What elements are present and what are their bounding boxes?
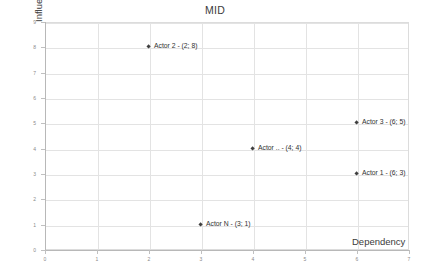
gridline-horizontal <box>46 175 408 176</box>
data-point-label: Actor N - (3; 1) <box>206 220 251 227</box>
x-axis-tick <box>97 250 98 254</box>
y-axis-tick-label: 1 <box>22 222 36 228</box>
data-point-label: Actor 3 - (6; 5) <box>362 118 405 125</box>
data-point-label: Actor 2 - (2; 8) <box>154 42 197 49</box>
scatter-chart: MID Influence Dependency 012345670123456… <box>0 0 430 274</box>
y-axis-tick-label: 9 <box>22 19 36 25</box>
y-axis-tick-label: 5 <box>22 120 36 126</box>
y-axis-tick <box>41 47 45 48</box>
x-axis-tick-label: 7 <box>408 256 411 262</box>
gridline-horizontal <box>46 48 408 49</box>
gridline-vertical <box>306 23 307 249</box>
x-axis-tick <box>253 250 254 254</box>
gridline-horizontal <box>46 99 408 100</box>
y-axis-tick <box>41 250 45 251</box>
y-axis-tick-label: 3 <box>22 171 36 177</box>
y-axis-tick-label: 2 <box>22 196 36 202</box>
gridline-vertical <box>254 23 255 249</box>
x-axis-tick-label: 5 <box>304 256 307 262</box>
gridline-vertical <box>358 23 359 249</box>
plot-area <box>45 22 409 250</box>
gridline-horizontal <box>46 74 408 75</box>
x-axis-tick-label: 3 <box>200 256 203 262</box>
y-axis-tick <box>41 123 45 124</box>
x-axis-tick <box>149 250 150 254</box>
y-axis-line <box>45 22 46 251</box>
x-axis-title: Dependency <box>352 236 405 247</box>
gridline-horizontal <box>46 150 408 151</box>
gridline-horizontal <box>46 124 408 125</box>
y-axis-tick <box>41 98 45 99</box>
gridline-vertical <box>150 23 151 249</box>
x-axis-tick-label: 6 <box>356 256 359 262</box>
y-axis-tick <box>41 149 45 150</box>
x-axis-tick-label: 4 <box>252 256 255 262</box>
y-axis-tick-label: 8 <box>22 44 36 50</box>
y-axis-tick <box>41 22 45 23</box>
x-axis-tick <box>409 250 410 254</box>
y-axis-tick <box>41 225 45 226</box>
x-axis-tick-label: 0 <box>44 256 47 262</box>
gridline-vertical <box>98 23 99 249</box>
y-axis-tick-label: 7 <box>22 70 36 76</box>
y-axis-tick-label: 6 <box>22 95 36 101</box>
x-axis-tick <box>201 250 202 254</box>
data-point-label: Actor .. - (4; 4) <box>258 144 301 151</box>
x-axis-tick-label: 1 <box>96 256 99 262</box>
data-point-label: Actor 1 - (6; 3) <box>362 169 405 176</box>
x-axis-tick <box>357 250 358 254</box>
gridline-horizontal <box>46 23 408 24</box>
y-axis-tick-label: 4 <box>22 146 36 152</box>
x-axis-tick <box>305 250 306 254</box>
x-axis-tick-label: 2 <box>148 256 151 262</box>
x-axis-line <box>45 250 409 251</box>
y-axis-tick <box>41 73 45 74</box>
gridline-vertical <box>202 23 203 249</box>
y-axis-tick <box>41 199 45 200</box>
gridline-horizontal <box>46 200 408 201</box>
chart-title: MID <box>0 4 430 16</box>
x-axis-tick <box>45 250 46 254</box>
y-axis-tick <box>41 174 45 175</box>
y-axis-tick-label: 0 <box>22 247 36 253</box>
